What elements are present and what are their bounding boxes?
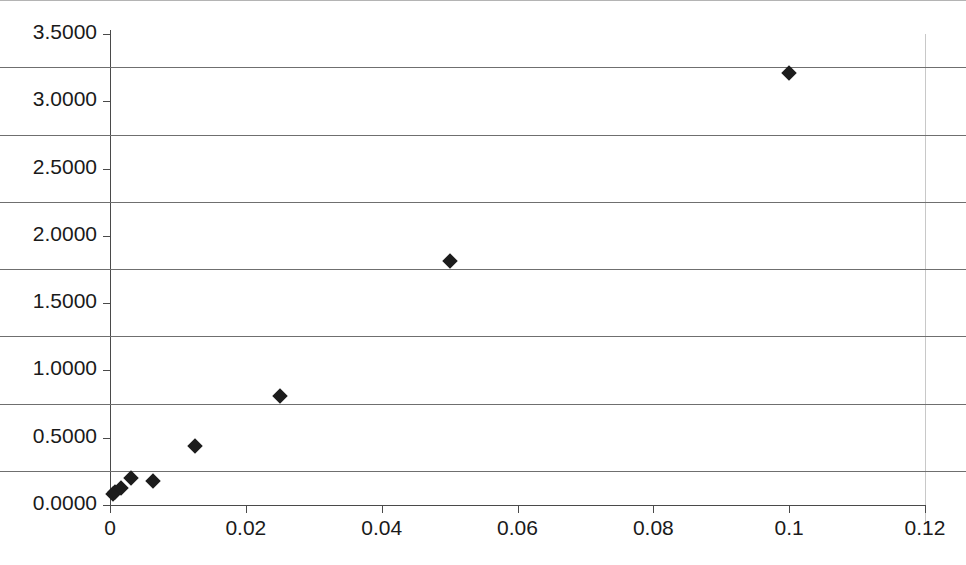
y-tick-mark bbox=[103, 101, 110, 102]
y-tick-mark bbox=[103, 34, 110, 35]
x-tick-mark bbox=[789, 505, 790, 513]
y-tick-mark bbox=[103, 169, 110, 170]
x-tick-mark bbox=[246, 505, 247, 513]
y-tick-mark bbox=[103, 505, 110, 506]
x-tick-label: 0 bbox=[104, 516, 116, 540]
y-tick-mark bbox=[103, 303, 110, 304]
plot-right-border bbox=[925, 34, 926, 524]
x-tick-label: 0.08 bbox=[633, 516, 674, 540]
x-tick-mark bbox=[110, 505, 111, 513]
y-tick-mark bbox=[103, 438, 110, 439]
y-tick-label: 2.5000 bbox=[0, 155, 97, 179]
x-tick-label: 0.04 bbox=[361, 516, 402, 540]
gridline bbox=[0, 471, 966, 472]
y-tick-label: 3.0000 bbox=[0, 87, 97, 111]
gridline bbox=[0, 404, 966, 405]
x-tick-mark bbox=[925, 505, 926, 513]
y-tick-mark bbox=[103, 370, 110, 371]
y-tick-mark bbox=[103, 236, 110, 237]
gridline bbox=[0, 135, 966, 136]
gridline bbox=[0, 269, 966, 270]
gridline bbox=[0, 67, 966, 68]
y-tick-label: 2.0000 bbox=[0, 222, 97, 246]
x-tick-mark bbox=[653, 505, 654, 513]
x-tick-label: 0.1 bbox=[775, 516, 804, 540]
y-tick-label: 0.5000 bbox=[0, 424, 97, 448]
y-tick-label: 0.0000 bbox=[0, 491, 97, 515]
x-tick-mark bbox=[518, 505, 519, 513]
y-tick-label: 1.0000 bbox=[0, 356, 97, 380]
x-tick-mark bbox=[382, 505, 383, 513]
x-tick-label: 0.12 bbox=[905, 516, 946, 540]
y-tick-label: 1.5000 bbox=[0, 289, 97, 313]
y-tick-label: 3.5000 bbox=[0, 20, 97, 44]
scatter-chart: 0.00000.50001.00001.50002.00002.50003.00… bbox=[0, 0, 966, 565]
gridline bbox=[0, 202, 966, 203]
gridline bbox=[0, 0, 966, 1]
gridline bbox=[0, 336, 966, 337]
x-tick-label: 0.02 bbox=[225, 516, 266, 540]
x-tick-label: 0.06 bbox=[497, 516, 538, 540]
